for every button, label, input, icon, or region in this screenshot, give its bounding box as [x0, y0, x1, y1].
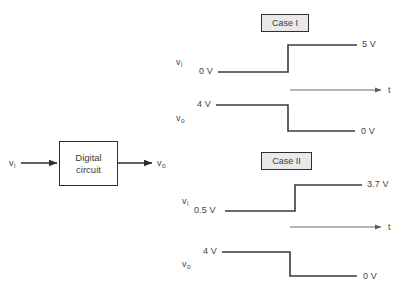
case-1-header-box: Case I	[261, 14, 309, 32]
case-1-vi-v: v	[176, 57, 181, 67]
case-1-vi-high-label: 5 V	[362, 39, 376, 49]
case-2-vo-high-label: 4 V	[203, 246, 217, 256]
case-1-vi-waveform	[218, 45, 357, 72]
digital-circuit-line1: Digital	[75, 152, 101, 164]
case-2-vo-subscript: o	[187, 263, 191, 270]
case-2-vi-high-label: 3.7 V	[367, 179, 389, 189]
case-1-vi-trace	[218, 45, 357, 72]
case-1-vo-subscript: o	[181, 117, 185, 124]
case-2-vo-signal-label: vo	[182, 259, 191, 270]
case-1-vo-high-label: 4 V	[197, 99, 211, 109]
case-2-vo-v: v	[182, 259, 187, 269]
case-2-vi-trace	[225, 185, 362, 211]
case-2-vi-low-label: 0.5 V	[194, 205, 216, 215]
case-2-header-box: Case II	[261, 152, 312, 170]
digital-circuit-line2: circuit	[76, 164, 101, 176]
case-1-vi-subscript: i	[181, 61, 183, 68]
case-1-vo-v: v	[176, 113, 181, 123]
figure-root: Digital circuit vi vo Case I vi 0 V 5 V …	[0, 0, 409, 294]
case-2-vo-low-label: 0 V	[363, 271, 377, 281]
block-input-subscript: i	[14, 162, 16, 169]
case-2-vo-waveform	[222, 252, 357, 276]
block-output-label: vo	[157, 158, 166, 169]
case-2-vi-signal-label: vi	[182, 196, 188, 207]
block-input-v: v	[9, 158, 14, 168]
case-1-time-axis-label: t	[388, 85, 391, 95]
case-2-vi-waveform	[225, 185, 362, 211]
case-1-vo-signal-label: vo	[176, 113, 185, 124]
block-output-subscript: o	[162, 162, 166, 169]
block-input-label: vi	[9, 158, 15, 169]
case-1-vi-low-label: 0 V	[199, 66, 213, 76]
case-2-vi-subscript: i	[187, 200, 189, 207]
case-1-vo-waveform	[216, 105, 355, 131]
case-2-vi-v: v	[182, 196, 187, 206]
block-output-v: v	[157, 158, 162, 168]
case-1-vi-signal-label: vi	[176, 57, 182, 68]
case-1-vo-trace	[216, 105, 355, 131]
case-2-vo-trace	[222, 252, 357, 276]
digital-circuit-block: Digital circuit	[59, 141, 118, 186]
case-2-time-axis-label: t	[388, 222, 391, 232]
case-1-vo-low-label: 0 V	[361, 126, 375, 136]
